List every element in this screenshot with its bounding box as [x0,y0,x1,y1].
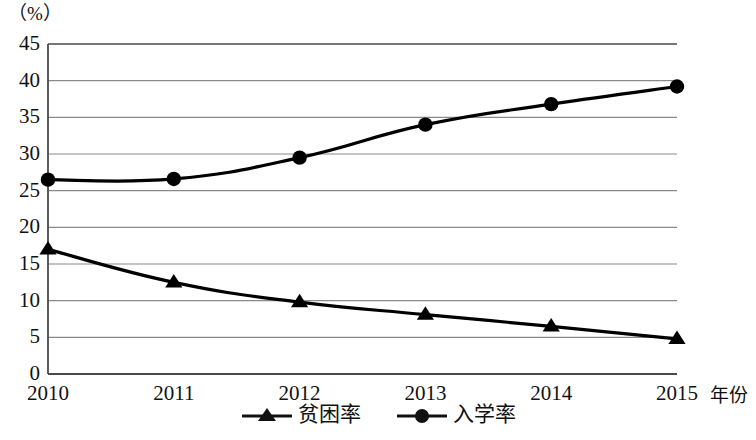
x-axis-tick-label: 2011 [144,383,204,404]
data-point-marker [167,172,181,186]
legend-item: 贫困率 [240,404,361,425]
data-point-marker [670,79,684,93]
y-axis-tick-label: 30 [2,143,40,164]
line-chart: （%） 454035302520151050 20102011201220132… [0,0,756,440]
data-point-marker [39,241,56,255]
data-point-marker [544,97,558,111]
legend-label: 贫困率 [298,404,361,425]
y-axis-tick-label: 10 [2,290,40,311]
x-axis-tick-label: 2010 [18,383,78,404]
x-axis-tick-label: 2015 [647,383,707,404]
legend-label: 入学率 [453,404,516,425]
legend-triangle-marker-icon [240,405,294,425]
data-point-marker [41,172,55,186]
data-point-marker [418,117,432,131]
y-axis-tick-label: 35 [2,106,40,127]
legend-item: 入学率 [395,404,516,425]
chart-legend: 贫困率入学率 [0,404,756,425]
y-axis-tick-label: 25 [2,180,40,201]
x-axis-tick-label: 2014 [521,383,581,404]
series-enrollment-rate [41,79,684,187]
x-axis-label: 年份 [710,386,748,405]
data-point-marker [292,150,306,164]
y-axis-tick-label: 15 [2,253,40,274]
series-poverty-rate [39,241,685,344]
x-axis-tick-label: 2012 [270,383,330,404]
series-line [48,249,677,338]
y-axis-tick-label: 45 [2,33,40,54]
y-axis-tick-label: 40 [2,70,40,91]
legend-circle-marker-icon [395,405,449,425]
y-axis-tick-label: 5 [2,326,40,347]
series-line [48,87,677,182]
plot-canvas [0,0,756,440]
x-axis-tick-label: 2013 [395,383,455,404]
y-axis-tick-label: 20 [2,216,40,237]
